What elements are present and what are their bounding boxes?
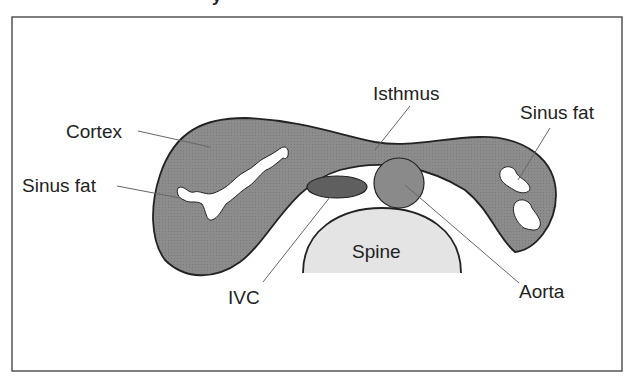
label-isthmus: Isthmus bbox=[373, 83, 440, 104]
horseshoe-kidney-diagram: y Cortex Sinus fat Isthmus Sinus fat Spi… bbox=[0, 0, 638, 379]
label-sinus-fat-left: Sinus fat bbox=[22, 175, 97, 196]
ivc bbox=[307, 176, 367, 198]
title-fragment: y bbox=[212, 0, 222, 6]
label-sinus-fat-right: Sinus fat bbox=[520, 102, 595, 123]
label-aorta: Aorta bbox=[519, 281, 565, 302]
label-spine: Spine bbox=[352, 241, 401, 262]
label-ivc: IVC bbox=[228, 287, 260, 308]
aorta bbox=[374, 158, 424, 208]
label-cortex: Cortex bbox=[66, 121, 122, 142]
